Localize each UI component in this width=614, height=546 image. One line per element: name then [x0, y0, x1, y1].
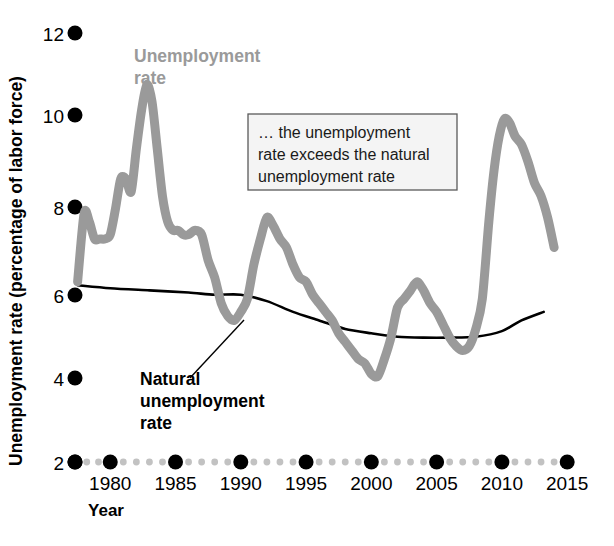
- callout-line-2: rate exceeds the natural: [258, 146, 430, 163]
- natural-rate-label-line-3: rate: [140, 413, 172, 433]
- x-tick-label-1990: 1990: [220, 473, 262, 494]
- x-tick-label-2015: 2015: [546, 473, 588, 494]
- x-axis-major-dot: [364, 455, 379, 470]
- x-axis-minor-dot: [159, 459, 166, 466]
- x-tick-label-2005: 2005: [415, 473, 457, 494]
- y-tick-dot-10: [68, 108, 83, 123]
- x-axis-major-dot: [299, 455, 314, 470]
- x-axis-major-dot: [103, 455, 118, 470]
- x-axis-minor-dot: [211, 459, 218, 466]
- callout-line-1: … the unemployment: [258, 124, 411, 141]
- x-axis-minor-dot: [407, 459, 414, 466]
- x-axis-minor-dot: [198, 459, 205, 466]
- y-tick-label-12: 12: [43, 24, 64, 45]
- x-axis-major-dot: [429, 455, 444, 470]
- x-axis-minor-dot: [525, 459, 532, 466]
- x-axis-minor-dot: [394, 459, 401, 466]
- y-tick-label-6: 6: [53, 286, 64, 307]
- x-axis-minor-dot: [316, 459, 323, 466]
- x-axis-major-dot: [68, 455, 83, 470]
- x-tick-label-1980: 1980: [89, 473, 131, 494]
- y-tick-label-2: 2: [53, 453, 64, 474]
- x-axis-minor-dot: [290, 459, 297, 466]
- x-tick-label-1985: 1985: [154, 473, 196, 494]
- x-axis-minor-dot: [342, 459, 349, 466]
- x-tick-label-1995: 1995: [285, 473, 327, 494]
- y-tick-dot-12: [68, 26, 83, 41]
- x-axis-major-dot: [560, 455, 575, 470]
- x-axis-minor-dot: [146, 459, 153, 466]
- x-axis-minor-dot: [185, 459, 192, 466]
- x-tick-labels: 19801985199019952000200520102015: [89, 473, 588, 494]
- x-axis-minor-dot: [485, 459, 492, 466]
- x-axis-minor-dot: [133, 459, 140, 466]
- x-axis-minor-dot: [459, 459, 466, 466]
- natural-rate-label-line-1: Natural: [140, 369, 200, 389]
- unemployment-rate-label-line-1: Unemployment: [134, 46, 261, 66]
- x-axis-minor-dot: [224, 459, 231, 466]
- x-axis-minor-dot: [538, 459, 545, 466]
- x-axis-minor-dot: [551, 459, 558, 466]
- x-axis-minor-dot: [95, 459, 102, 466]
- x-axis-minor-dot: [355, 459, 362, 466]
- y-tick-dot-4: [68, 371, 83, 386]
- x-axis-minor-dot: [83, 459, 90, 466]
- natural-rate-label-line-2: unemployment: [140, 391, 265, 411]
- x-tick-label-2010: 2010: [481, 473, 523, 494]
- x-axis-minor-dot: [472, 459, 479, 466]
- x-axis-minor-dot: [446, 459, 453, 466]
- callout-line-3: unemployment rate: [258, 168, 395, 185]
- y-tick-label-4: 4: [53, 369, 64, 390]
- x-axis-minor-dot: [120, 459, 127, 466]
- x-axis-minor-dot: [329, 459, 336, 466]
- unemployment-rate-label-line-2: rate: [134, 68, 166, 88]
- x-axis-major-dot: [168, 455, 183, 470]
- x-axis-minor-dot: [250, 459, 257, 466]
- x-axis-major-dot: [494, 455, 509, 470]
- unemployment-rate-chart: Unemployment rate (percentage of labor f…: [0, 0, 614, 546]
- x-tick-label-2000: 2000: [350, 473, 392, 494]
- x-axis-title: Year: [88, 501, 124, 520]
- callout-annotation: … the unemployment rate exceeds the natu…: [248, 114, 457, 190]
- y-tick-label-8: 8: [53, 198, 64, 219]
- x-axis-minor-dot: [264, 459, 271, 466]
- y-tick-labels: 12 10 8 6 4 2: [43, 24, 65, 474]
- y-tick-dot-6: [68, 288, 83, 303]
- natural-rate-label: Natural unemployment rate: [140, 369, 265, 433]
- unemployment-rate-label: Unemployment rate: [134, 46, 261, 88]
- x-axis-minor-dot: [512, 459, 519, 466]
- x-axis-dotted-baseline: [68, 455, 575, 470]
- y-axis-title: Unemployment rate (percentage of labor f…: [6, 76, 26, 466]
- x-axis-minor-dot: [420, 459, 427, 466]
- x-axis-major-dot: [233, 455, 248, 470]
- y-tick-label-10: 10: [43, 106, 64, 127]
- x-axis-minor-dot: [277, 459, 284, 466]
- x-axis-minor-dot: [381, 459, 388, 466]
